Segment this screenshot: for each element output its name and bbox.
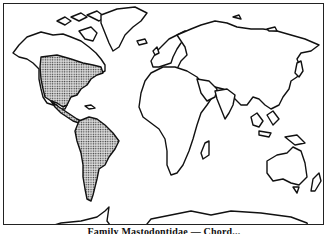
antarctica <box>41 207 113 225</box>
cuba <box>85 105 95 109</box>
map-caption: Family Mastodontidae — Chord... <box>0 226 328 234</box>
world-map <box>4 4 324 225</box>
map-frame <box>3 3 324 225</box>
south-america-range <box>75 117 119 201</box>
australia <box>267 147 307 185</box>
